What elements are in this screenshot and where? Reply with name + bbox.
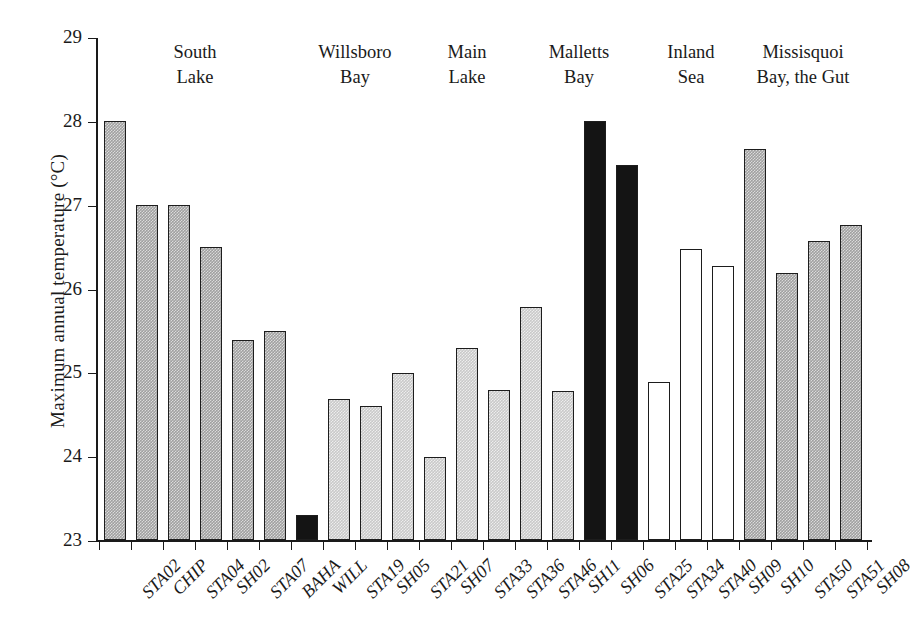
bar-sta36 (488, 390, 510, 540)
y-tick: 28 (88, 122, 97, 123)
y-tick-label: 29 (63, 26, 82, 48)
y-tick-label: 24 (63, 445, 82, 467)
x-tick (547, 541, 548, 550)
x-tick (259, 541, 260, 550)
x-tick (195, 541, 196, 550)
x-tick (707, 541, 708, 550)
x-tick (803, 541, 804, 550)
x-tick (483, 541, 484, 550)
plot-area: 23242526272829 (97, 38, 872, 541)
x-tick (643, 541, 644, 550)
x-tick (291, 541, 292, 550)
group-label-missisquoi: Missisquoi Bay, the Gut (713, 40, 893, 90)
bar-sh07 (424, 457, 446, 540)
x-tick (515, 541, 516, 550)
x-tick (99, 541, 100, 550)
bar-sta50 (776, 273, 798, 540)
bar-sta51 (808, 241, 830, 540)
bar-sh05 (360, 406, 382, 540)
x-tick (323, 541, 324, 550)
x-tick (739, 541, 740, 550)
bar-sta21 (392, 373, 414, 540)
y-tick: 27 (88, 206, 97, 207)
y-tick-label: 23 (63, 529, 82, 551)
y-tick-label: 26 (63, 278, 82, 300)
bar-sta19 (328, 399, 350, 540)
bar-sta40 (680, 249, 702, 540)
x-tick (867, 541, 868, 550)
x-tick (227, 541, 228, 550)
y-tick-label: 28 (63, 110, 82, 132)
bar-sta25 (616, 165, 638, 540)
bar-sh02 (200, 247, 222, 540)
y-tick: 23 (88, 541, 97, 542)
bar-sh08 (840, 225, 862, 540)
y-tick-label: 27 (63, 194, 82, 216)
group-label-south: South Lake (105, 40, 285, 90)
bar-sta34 (648, 382, 670, 540)
y-tick: 24 (88, 457, 97, 458)
x-tick (835, 541, 836, 550)
x-tick (611, 541, 612, 550)
x-tick (771, 541, 772, 550)
bar-sh06 (584, 121, 606, 540)
x-tick (163, 541, 164, 550)
bar-sta04 (168, 205, 190, 540)
y-tick: 26 (88, 290, 97, 291)
y-tick: 29 (88, 38, 97, 39)
x-tick (419, 541, 420, 550)
bar-will (296, 515, 318, 540)
bar-chip (136, 205, 158, 540)
y-tick: 25 (88, 373, 97, 374)
bar-baha (264, 331, 286, 540)
x-tick (675, 541, 676, 550)
x-tick (355, 541, 356, 550)
x-tick (579, 541, 580, 550)
bar-sta46 (520, 307, 542, 540)
y-tick-label: 25 (63, 361, 82, 383)
bar-sta33 (456, 348, 478, 540)
bar-sta02 (104, 121, 126, 540)
x-tick (451, 541, 452, 550)
x-tick (387, 541, 388, 550)
x-tick (131, 541, 132, 550)
bar-sh09 (712, 266, 734, 540)
bar-sh10 (744, 149, 766, 541)
bar-sta07 (232, 340, 254, 540)
x-axis-line (96, 540, 872, 542)
bar-sh11 (552, 391, 574, 540)
